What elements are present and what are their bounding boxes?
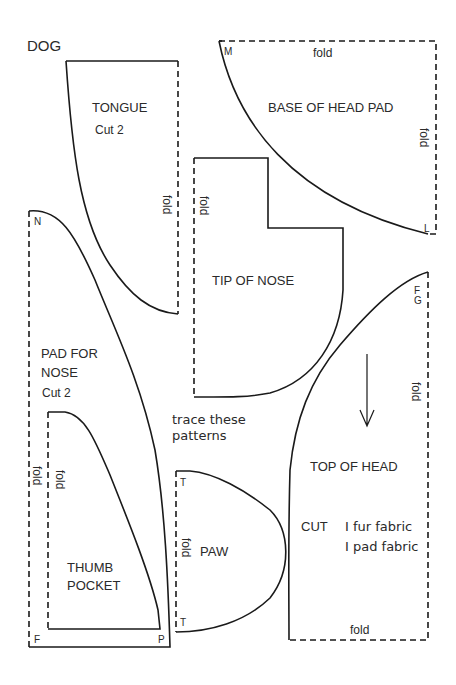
base-fold-right-label: fold: [417, 128, 431, 147]
note-line-1: trace these: [172, 412, 246, 427]
mark-m: M: [224, 46, 232, 57]
pad-for-nose-label-2: NOSE: [41, 365, 78, 380]
mark-g-top: G: [414, 295, 422, 306]
pattern-sheet: DOG TONGUE Cut 2 fold M fold BASE OF HEA…: [0, 0, 456, 685]
top-of-head-piece: F G fold TOP OF HEAD CUT I fur fabric I …: [289, 272, 428, 640]
base-of-head-pad-piece: M fold BASE OF HEAD PAD fold L: [219, 41, 436, 234]
tip-of-nose-piece: fold TIP OF NOSE: [194, 158, 343, 397]
top-fold-right-label: fold: [409, 382, 423, 401]
grain-arrow-icon: [360, 354, 374, 426]
base-fold-top-label: fold: [313, 46, 332, 60]
thumb-fold-label: fold: [53, 470, 67, 489]
tip-fold-label: fold: [197, 196, 211, 215]
mark-t-bottom: T: [180, 617, 186, 628]
top-of-head-label: TOP OF HEAD: [310, 459, 398, 474]
pad-for-nose-label-1: PAD FOR: [41, 346, 98, 361]
trace-note: trace these patterns: [172, 412, 246, 443]
paw-label: PAW: [200, 544, 229, 559]
mark-p: P: [158, 634, 165, 645]
paw-fold-label: fold: [179, 538, 193, 557]
note-line-2: patterns: [172, 428, 227, 443]
page-title: DOG: [27, 37, 61, 54]
tongue-label: TONGUE: [92, 100, 148, 115]
top-cut-label: CUT: [301, 519, 328, 534]
thumb-pocket-label-2: POCKET: [67, 578, 121, 593]
tongue-cut: Cut 2: [95, 123, 124, 137]
tongue-fold-label: fold: [160, 195, 174, 214]
tip-of-nose-label: TIP OF NOSE: [212, 273, 294, 288]
tongue-piece: TONGUE Cut 2 fold: [66, 61, 178, 314]
top-fold-bottom-label: fold: [350, 623, 369, 637]
pad-for-nose-cut: Cut 2: [42, 386, 71, 400]
top-cut-line-1: I fur fabric: [345, 519, 412, 534]
pad-fold-label: fold: [30, 466, 44, 485]
mark-f: F: [34, 634, 40, 645]
paw-piece: T fold PAW T: [176, 471, 286, 632]
base-of-head-pad-label: BASE OF HEAD PAD: [268, 100, 393, 115]
thumb-pocket-piece: fold THUMB POCKET: [48, 412, 160, 629]
thumb-pocket-label-1: THUMB: [67, 560, 113, 575]
top-cut-line-2: I pad fabric: [345, 539, 418, 554]
mark-l: L: [424, 223, 430, 234]
mark-n: N: [34, 216, 41, 227]
mark-t-top: T: [180, 477, 186, 488]
